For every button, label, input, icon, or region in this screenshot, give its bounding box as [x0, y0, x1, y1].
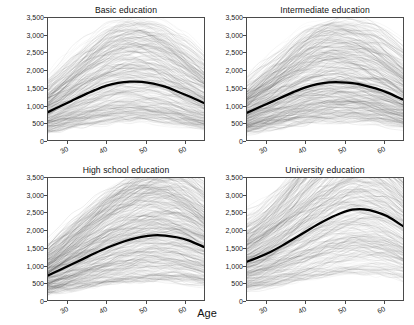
- y-tick-mark: [44, 35, 47, 36]
- y-tick-mark: [44, 177, 47, 178]
- plot-svg: [247, 178, 403, 300]
- y-tick-mark: [44, 230, 47, 231]
- y-tick-mark: [44, 301, 47, 302]
- panel-title: Basic education: [47, 5, 205, 15]
- individual-trajectories: [48, 18, 204, 133]
- y-tick-label: 1,500: [225, 244, 243, 251]
- x-tick-mark: [266, 301, 267, 304]
- y-tick-mark: [243, 283, 246, 284]
- panel-title: Intermediate education: [246, 5, 404, 15]
- x-tick-label: 60: [177, 145, 187, 155]
- y-tick-mark: [243, 141, 246, 142]
- y-tick-label: 2,000: [26, 67, 44, 74]
- figure-root: Income (monthly, net) Age Basic educatio…: [0, 0, 414, 325]
- y-tick-mark: [243, 70, 246, 71]
- x-tick-label: 40: [297, 145, 307, 155]
- y-tick-label: 3,000: [26, 191, 44, 198]
- y-tick-mark: [243, 266, 246, 267]
- y-tick-label: 2,000: [26, 227, 44, 234]
- y-tick-mark: [44, 212, 47, 213]
- y-tick-label: 1,000: [26, 262, 44, 269]
- y-tick-label: 2,500: [225, 49, 243, 56]
- x-tick-mark: [305, 301, 306, 304]
- y-tick-mark: [44, 88, 47, 89]
- y-tick-label: 1,000: [26, 102, 44, 109]
- y-tick-mark: [44, 141, 47, 142]
- plot-svg: [48, 178, 204, 300]
- y-tick-label: 1,000: [225, 102, 243, 109]
- y-tick-mark: [44, 70, 47, 71]
- y-tick-label: 500: [231, 120, 243, 127]
- individual-trajectories: [247, 178, 403, 292]
- x-tick-label: 50: [337, 145, 347, 155]
- individual-trajectories: [48, 178, 204, 296]
- x-tick-mark: [305, 141, 306, 144]
- y-tick-mark: [243, 230, 246, 231]
- y-tick-label: 3,000: [26, 31, 44, 38]
- panel-university-education: University education 05001,0001,5002,000…: [246, 177, 404, 301]
- x-tick-label: 40: [98, 145, 108, 155]
- y-tick-mark: [243, 35, 246, 36]
- y-tick-label: 2,000: [225, 227, 243, 234]
- y-tick-label: 2,500: [26, 49, 44, 56]
- y-tick-mark: [243, 212, 246, 213]
- x-tick-mark: [345, 141, 346, 144]
- y-tick-mark: [44, 52, 47, 53]
- x-tick-mark: [106, 141, 107, 144]
- x-tick-mark: [67, 141, 68, 144]
- y-tick-mark: [243, 17, 246, 18]
- y-tick-mark: [243, 301, 246, 302]
- plot-svg: [48, 18, 204, 140]
- y-tick-label: 2,000: [225, 67, 243, 74]
- x-tick-mark: [146, 301, 147, 304]
- x-tick-mark: [67, 301, 68, 304]
- panel-title: High school education: [47, 165, 205, 175]
- y-tick-label: 2,500: [26, 209, 44, 216]
- x-tick-mark: [106, 301, 107, 304]
- y-tick-label: 500: [32, 120, 44, 127]
- individual-trajectories: [247, 18, 403, 135]
- panel-basic-education: Basic education 05001,0001,5002,0002,500…: [47, 17, 205, 141]
- plot-area: [246, 17, 404, 141]
- y-tick-label: 2,500: [225, 209, 243, 216]
- y-tick-label: 3,500: [26, 174, 44, 181]
- x-tick-label: 30: [258, 145, 268, 155]
- x-tick-mark: [384, 301, 385, 304]
- y-tick-label: 1,500: [225, 84, 243, 91]
- y-tick-mark: [44, 266, 47, 267]
- y-tick-label: 3,500: [26, 14, 44, 21]
- y-tick-mark: [44, 248, 47, 249]
- y-axis-label: Income (monthly, net): [0, 0, 13, 28]
- x-tick-label: 50: [138, 145, 148, 155]
- x-tick-mark: [146, 141, 147, 144]
- y-tick-mark: [243, 248, 246, 249]
- x-tick-mark: [345, 301, 346, 304]
- x-tick-mark: [266, 141, 267, 144]
- y-tick-mark: [243, 177, 246, 178]
- y-tick-mark: [243, 88, 246, 89]
- y-tick-mark: [44, 195, 47, 196]
- y-tick-mark: [44, 17, 47, 18]
- y-tick-label: 1,500: [26, 84, 44, 91]
- y-tick-mark: [44, 106, 47, 107]
- panel-intermediate-education: Intermediate education 05001,0001,5002,0…: [246, 17, 404, 141]
- y-tick-mark: [44, 123, 47, 124]
- y-tick-label: 3,500: [225, 14, 243, 21]
- y-tick-label: 3,500: [225, 174, 243, 181]
- y-tick-label: 1,000: [225, 262, 243, 269]
- x-tick-label: 60: [376, 145, 386, 155]
- y-tick-label: 500: [231, 280, 243, 287]
- plot-svg: [247, 18, 403, 140]
- y-tick-label: 3,000: [225, 31, 243, 38]
- panel-high-school-education: High school education 05001,0001,5002,00…: [47, 177, 205, 301]
- x-tick-mark: [185, 301, 186, 304]
- plot-area: [47, 17, 205, 141]
- y-tick-mark: [44, 283, 47, 284]
- y-tick-mark: [243, 195, 246, 196]
- y-tick-mark: [243, 123, 246, 124]
- x-tick-label: 30: [59, 145, 69, 155]
- y-tick-mark: [243, 106, 246, 107]
- y-tick-mark: [243, 52, 246, 53]
- y-tick-label: 1,500: [26, 244, 44, 251]
- plot-area: [47, 177, 205, 301]
